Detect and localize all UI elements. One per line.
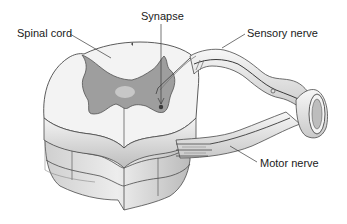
label-spinal-cord: Spinal cord	[17, 27, 72, 39]
spinal-nerve-tube	[296, 89, 328, 137]
label-synapse: Synapse	[141, 10, 184, 22]
sensory-nerve-leader	[222, 34, 245, 48]
label-sensory-nerve: Sensory nerve	[247, 27, 318, 39]
spinal-cord-diagram: Spinal cord Synapse Sensory nerve Motor …	[0, 0, 347, 224]
label-motor-nerve: Motor nerve	[260, 157, 319, 169]
spinal-cord-top-segment	[44, 42, 199, 168]
